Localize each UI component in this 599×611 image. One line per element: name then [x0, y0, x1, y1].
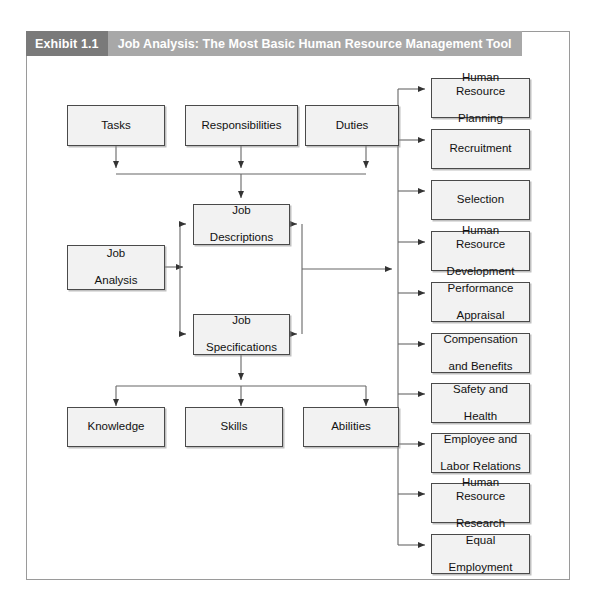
node-job-specifications[interactable]: JobSpecifications — [193, 314, 290, 355]
node-job-descriptions[interactable]: JobDescriptions — [193, 204, 290, 245]
node-hr-planning-line2: Planning — [435, 112, 526, 126]
node-hr-planning-line1: Human Resource — [435, 71, 526, 98]
node-job-descriptions-line1: Job — [207, 204, 276, 218]
node-compensation-benefits[interactable]: Compensationand Benefits — [431, 333, 530, 373]
node-recruitment[interactable]: Recruitment — [431, 129, 530, 169]
exhibit-number-badge: Exhibit 1.1 — [26, 31, 108, 56]
node-selection-label: Selection — [454, 193, 507, 207]
node-job-specifications-label: JobSpecifications — [200, 314, 283, 355]
node-compensation-benefits-line2: and Benefits — [440, 360, 520, 374]
node-equal-employment-line2: Employment — [446, 561, 516, 575]
node-hr-planning-label: Human ResourcePlanning — [432, 71, 529, 125]
node-safety-health-line1: Safety and — [450, 383, 511, 397]
node-knowledge[interactable]: Knowledge — [67, 407, 165, 447]
node-hr-research[interactable]: Human ResourceResearch — [431, 483, 530, 523]
node-hr-research-line1: Human Resource — [435, 476, 526, 503]
exhibit-header: Exhibit 1.1 Job Analysis: The Most Basic… — [26, 31, 522, 56]
node-duties-label: Duties — [333, 119, 372, 133]
node-performance-appraisal-line2: Appraisal — [445, 309, 517, 323]
node-employee-labor-relations[interactable]: Employee andLabor Relations — [431, 433, 530, 473]
node-employee-labor-relations-line1: Employee and — [437, 433, 524, 447]
node-safety-health-line2: Health — [450, 410, 511, 424]
node-job-analysis-line2: Analysis — [92, 274, 141, 288]
node-hr-development-label: Human ResourceDevelopment — [432, 224, 529, 278]
node-skills[interactable]: Skills — [185, 407, 283, 447]
node-performance-appraisal-label: PerformanceAppraisal — [442, 282, 520, 323]
node-duties[interactable]: Duties — [305, 105, 399, 146]
node-responsibilities[interactable]: Responsibilities — [185, 105, 298, 146]
node-job-specifications-line2: Specifications — [203, 341, 280, 355]
node-hr-development-line1: Human Resource — [435, 224, 526, 251]
node-hr-development[interactable]: Human ResourceDevelopment — [431, 231, 530, 271]
node-hr-planning[interactable]: Human ResourcePlanning — [431, 78, 530, 118]
node-job-descriptions-label: JobDescriptions — [204, 204, 279, 245]
node-equal-employment-line1: Equal — [446, 534, 516, 548]
node-tasks-label: Tasks — [98, 119, 133, 133]
node-abilities-label: Abilities — [328, 420, 374, 434]
node-job-specifications-line1: Job — [203, 314, 280, 328]
node-knowledge-label: Knowledge — [85, 420, 148, 434]
node-abilities[interactable]: Abilities — [303, 407, 399, 447]
node-job-analysis-label: JobAnalysis — [89, 247, 144, 288]
node-job-analysis-line1: Job — [92, 247, 141, 261]
node-hr-development-line2: Development — [435, 265, 526, 279]
node-performance-appraisal-line1: Performance — [445, 282, 517, 296]
node-equal-employment[interactable]: EqualEmployment — [431, 534, 530, 574]
node-tasks[interactable]: Tasks — [67, 105, 165, 146]
node-compensation-benefits-label: Compensationand Benefits — [437, 333, 523, 374]
exhibit-title: Job Analysis: The Most Basic Human Resou… — [108, 31, 522, 56]
node-responsibilities-label: Responsibilities — [199, 119, 285, 133]
node-compensation-benefits-line1: Compensation — [440, 333, 520, 347]
node-selection[interactable]: Selection — [431, 180, 530, 220]
job-analysis-flowchart: Tasks Responsibilities Duties JobAnalysi… — [0, 0, 599, 611]
node-recruitment-label: Recruitment — [447, 142, 515, 156]
node-performance-appraisal[interactable]: PerformanceAppraisal — [431, 282, 530, 322]
node-employee-labor-relations-line2: Labor Relations — [437, 460, 524, 474]
node-hr-research-line2: Research — [435, 517, 526, 531]
node-skills-label: Skills — [218, 420, 251, 434]
node-job-analysis[interactable]: JobAnalysis — [67, 245, 165, 290]
node-employee-labor-relations-label: Employee andLabor Relations — [434, 433, 527, 474]
node-hr-research-label: Human ResourceResearch — [432, 476, 529, 530]
node-safety-health[interactable]: Safety andHealth — [431, 383, 530, 423]
node-safety-health-label: Safety andHealth — [447, 383, 514, 424]
node-equal-employment-label: EqualEmployment — [443, 534, 519, 575]
node-job-descriptions-line2: Descriptions — [207, 231, 276, 245]
